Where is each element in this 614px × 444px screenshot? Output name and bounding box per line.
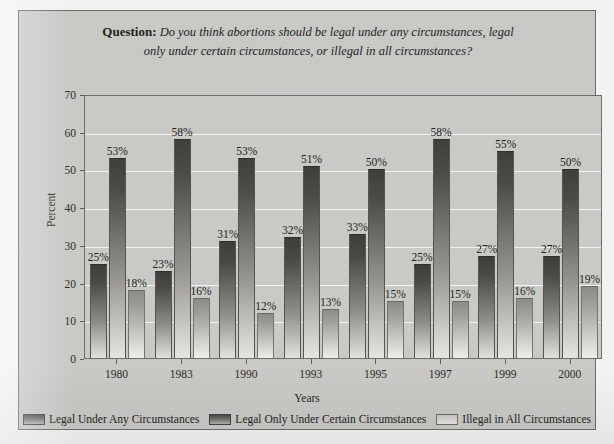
bar: [109, 158, 126, 358]
x-axis-tick-label: 1995: [364, 368, 387, 380]
bar: [516, 298, 533, 358]
bar-value-label: 27%: [476, 243, 497, 255]
bar: [478, 256, 495, 358]
chart-panel: Question: Do you think abortions should …: [18, 10, 596, 430]
bar-value-label: 33%: [347, 221, 368, 233]
bar: [90, 264, 107, 358]
bar-value-label: 53%: [236, 145, 257, 157]
x-axis-tick-label: 1999: [493, 368, 516, 380]
bar-value-label: 31%: [217, 228, 238, 240]
bar: [368, 169, 385, 358]
x-axis-tick-mark: [375, 359, 376, 364]
bar-value-label: 13%: [320, 296, 341, 308]
bar-value-label: 58%: [172, 126, 193, 138]
bar-value-label: 23%: [153, 258, 174, 270]
bar: [581, 286, 598, 358]
bar: [174, 139, 191, 358]
bar: [284, 237, 301, 358]
bar: [322, 309, 339, 358]
bar-value-label: 55%: [495, 138, 516, 150]
bar: [562, 169, 579, 358]
bar: [349, 234, 366, 358]
bar: [543, 256, 560, 358]
bar: [193, 298, 210, 358]
legend-label: Illegal in All Circumstances: [462, 413, 591, 425]
y-axis-tick-mark: [80, 359, 84, 360]
bar-value-label: 18%: [126, 277, 147, 289]
bar-value-label: 32%: [282, 224, 303, 236]
x-axis-tick-mark: [181, 359, 182, 364]
legend-item[interactable]: Illegal in All Circumstances: [436, 413, 591, 425]
bar: [128, 290, 145, 358]
bar-value-label: 25%: [88, 251, 109, 263]
bar-value-label: 15%: [450, 288, 471, 300]
legend-swatch-icon: [436, 414, 458, 425]
x-axis-title: Years: [19, 392, 595, 404]
bar-value-label: 12%: [255, 300, 276, 312]
x-axis-tick-label: 2000: [558, 368, 581, 380]
bar: [452, 301, 469, 358]
bar: [257, 313, 274, 358]
chart-title-line-2: only under certain circumstances, or ill…: [59, 42, 557, 60]
bar-value-label: 27%: [541, 243, 562, 255]
chart-title-line-1: Question: Do you think abortions should …: [59, 23, 557, 42]
bar: [387, 301, 404, 358]
y-axis-tick-label: 70: [54, 89, 76, 101]
x-axis-tick-label: 1990: [234, 368, 257, 380]
legend-item[interactable]: Legal Only Under Certain Circumstances: [209, 413, 426, 425]
chart-page: Question: Do you think abortions should …: [0, 0, 614, 444]
gridline: [85, 134, 601, 135]
chart-title-question-label: Question:: [102, 24, 156, 39]
y-axis-tick-label: 20: [54, 278, 76, 290]
bar-value-label: 25%: [412, 251, 433, 263]
legend-swatch-icon: [209, 414, 231, 425]
plot-area: 25%53%18%23%58%16%31%53%12%32%51%13%33%5…: [84, 95, 602, 359]
chart-legend: Legal Under Any CircumstancesLegal Only …: [19, 413, 595, 425]
bar-value-label: 51%: [301, 153, 322, 165]
bar-value-label: 15%: [385, 288, 406, 300]
x-axis-tick-mark: [505, 359, 506, 364]
gridline: [85, 171, 601, 172]
bar: [238, 158, 255, 358]
y-axis-tick-label: 50: [54, 164, 76, 176]
y-axis-tick-label: 60: [54, 127, 76, 139]
bar: [497, 151, 514, 358]
bar-value-label: 16%: [191, 285, 212, 297]
y-axis-tick-label: 0: [54, 353, 76, 365]
bar-value-label: 19%: [579, 273, 600, 285]
bar-value-label: 53%: [107, 145, 128, 157]
x-axis-tick-mark: [116, 359, 117, 364]
gridline: [85, 209, 601, 210]
bar: [433, 139, 450, 358]
legend-label: Legal Only Under Certain Circumstances: [235, 413, 426, 425]
x-axis-tick-label: 1993: [299, 368, 322, 380]
gridline: [85, 247, 601, 248]
chart-title: Question: Do you think abortions should …: [59, 23, 557, 60]
bar: [219, 241, 236, 358]
bar-value-label: 50%: [366, 156, 387, 168]
bar: [414, 264, 431, 358]
x-axis-tick-mark: [570, 359, 571, 364]
bar-value-label: 16%: [514, 285, 535, 297]
legend-swatch-icon: [23, 414, 45, 425]
x-axis-tick-label: 1997: [429, 368, 452, 380]
chart-title-text-1: Do you think abortions should be legal u…: [160, 25, 514, 39]
x-axis-tick-label: 1980: [105, 368, 128, 380]
bar-value-label: 50%: [560, 156, 581, 168]
y-axis-tick-label: 30: [54, 240, 76, 252]
bar: [303, 166, 320, 358]
bar: [155, 271, 172, 358]
x-axis-tick-mark: [311, 359, 312, 364]
x-axis-tick-mark: [246, 359, 247, 364]
legend-label: Legal Under Any Circumstances: [49, 413, 199, 425]
y-axis-tick-label: 40: [54, 202, 76, 214]
bar-value-label: 58%: [431, 126, 452, 138]
x-axis-tick-label: 1983: [170, 368, 193, 380]
y-axis-tick-label: 10: [54, 315, 76, 327]
x-axis-tick-mark: [440, 359, 441, 364]
legend-item[interactable]: Legal Under Any Circumstances: [23, 413, 199, 425]
